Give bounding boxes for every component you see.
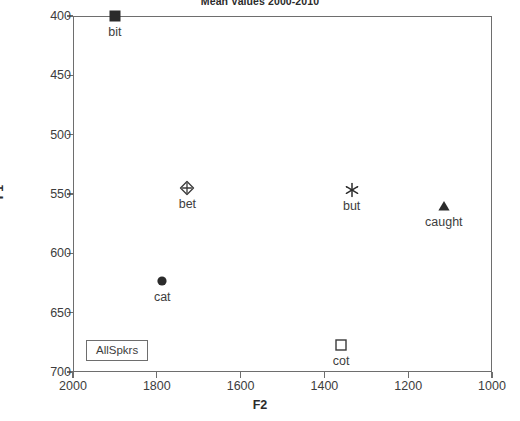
x-tick xyxy=(491,372,492,378)
open-square-icon xyxy=(335,338,348,351)
x-tick xyxy=(240,372,241,378)
y-axis-label: F1 xyxy=(0,185,6,200)
legend-entry-allspkrs: AllSpkrs xyxy=(96,344,138,356)
x-tick xyxy=(408,372,409,378)
scatter-plot-figure: Mean Values 2000-2010 F2 F1 bitbetcatbut… xyxy=(0,0,520,421)
y-tick-label: 400 xyxy=(50,9,71,23)
y-tick-label: 450 xyxy=(50,68,71,82)
diamond-cross-icon xyxy=(180,181,195,196)
y-tick-label: 600 xyxy=(50,246,71,260)
y-tick-label: 650 xyxy=(50,306,71,320)
x-tick-label: 1600 xyxy=(227,379,255,393)
x-tick xyxy=(156,372,157,378)
x-tick-label: 1800 xyxy=(143,379,171,393)
filled-square-icon xyxy=(108,10,121,23)
data-point-label: bet xyxy=(179,197,196,211)
plot-area xyxy=(73,16,492,372)
filled-triangle-icon xyxy=(437,199,451,212)
data-point-label: bit xyxy=(108,25,121,39)
y-tick-label: 700 xyxy=(50,365,71,379)
data-point-label: cot xyxy=(333,354,350,368)
x-tick xyxy=(72,372,73,378)
x-tick-label: 2000 xyxy=(59,379,87,393)
data-point-label: caught xyxy=(425,215,463,229)
data-point-label: but xyxy=(343,199,360,213)
asterisk-icon xyxy=(344,183,359,198)
x-tick-label: 1000 xyxy=(478,379,506,393)
y-tick-label: 500 xyxy=(50,128,71,142)
x-tick xyxy=(324,372,325,378)
filled-circle-icon xyxy=(156,274,169,287)
legend: AllSpkrs xyxy=(86,340,148,361)
chart-title: Mean Values 2000-2010 xyxy=(0,0,520,6)
y-tick-label: 550 xyxy=(50,187,71,201)
x-tick-label: 1200 xyxy=(394,379,422,393)
data-point-label: cat xyxy=(154,290,171,304)
x-axis-label: F2 xyxy=(0,398,520,412)
x-tick-label: 1400 xyxy=(310,379,338,393)
